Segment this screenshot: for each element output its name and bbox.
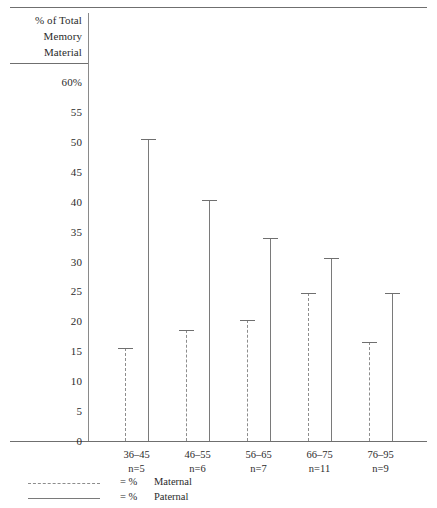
stem-cap	[240, 320, 255, 321]
x-group-label: 76–95n=9	[343, 448, 419, 476]
stem-paternal	[148, 139, 149, 441]
stem-cap	[118, 348, 133, 349]
stem-maternal	[247, 320, 248, 441]
legend: = % Maternal = % Paternal	[28, 476, 328, 506]
stem-cap	[141, 139, 156, 140]
stem-cap	[263, 238, 278, 239]
stem-maternal	[186, 330, 187, 441]
x-group-count: n=9	[343, 462, 419, 476]
stem-paternal	[392, 293, 393, 441]
stem-cap	[362, 342, 377, 343]
stem-paternal	[270, 238, 271, 441]
stem-cap	[324, 258, 339, 259]
legend-label-maternal: Maternal	[154, 476, 192, 487]
stem-maternal	[369, 342, 370, 441]
stem-cap	[385, 293, 400, 294]
plot-area	[0, 0, 437, 508]
stem-paternal	[209, 200, 210, 441]
legend-label-paternal: Paternal	[154, 491, 188, 502]
legend-item-maternal: = % Maternal	[28, 476, 328, 491]
stem-maternal	[308, 293, 309, 441]
x-group-range: 76–95	[343, 448, 419, 462]
stem-paternal	[331, 258, 332, 441]
legend-swatch-solid-icon	[28, 498, 100, 499]
figure: % of Total Memory Material 60%5550454035…	[0, 0, 437, 508]
legend-swatch-dashed-icon	[28, 483, 100, 484]
stem-maternal	[125, 348, 126, 441]
legend-equals-maternal: = %	[120, 476, 137, 487]
stem-cap	[301, 293, 316, 294]
stem-cap	[179, 330, 194, 331]
stem-cap	[202, 200, 217, 201]
legend-equals-paternal: = %	[120, 491, 137, 502]
legend-item-paternal: = % Paternal	[28, 491, 328, 506]
